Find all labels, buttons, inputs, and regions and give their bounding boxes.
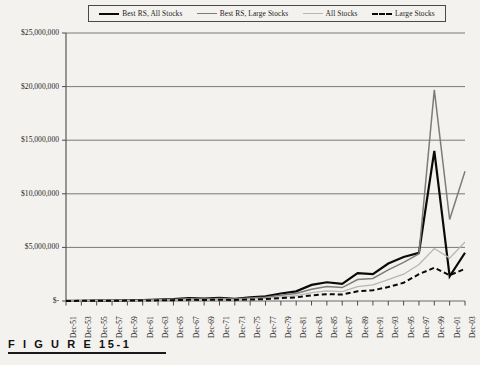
legend-entry: Best RS, All Stocks: [99, 9, 182, 18]
x-axis-tick-label: Dec-69: [207, 316, 216, 338]
x-axis-tick-label: Dec-87: [345, 316, 354, 338]
y-axis-tick-label: $25,000,000: [0, 28, 59, 37]
series-line: [66, 90, 465, 301]
x-axis-tick-label: Dec-85: [330, 316, 339, 338]
x-axis-tick-label: Dec-01: [453, 316, 462, 338]
legend-entry: Large Stocks: [372, 9, 435, 18]
legend-line-swatch: [303, 13, 323, 14]
x-axis-tick-label: Dec-55: [100, 316, 109, 338]
x-axis-tick-label: Dec-97: [422, 316, 431, 338]
series-line: [66, 151, 465, 301]
legend-label: All Stocks: [326, 9, 358, 18]
figure-caption-text: F I G U R E 15-1: [8, 338, 472, 351]
y-axis-tick-label: $20,000,000: [0, 82, 59, 91]
legend-label: Best RS, All Stocks: [122, 9, 182, 18]
x-axis-tick-label: Dec-77: [269, 316, 278, 338]
series-line: [66, 242, 465, 301]
legend-line-swatch: [99, 13, 119, 15]
chart-svg: [0, 26, 480, 311]
x-axis-tick-label: Dec-91: [376, 316, 385, 338]
x-axis-tick-label: Dec-99: [437, 316, 446, 338]
x-axis-tick-label: Dec-93: [391, 316, 400, 338]
x-axis-tick-label: Dec-65: [176, 316, 185, 338]
chart-legend: Best RS, All StocksBest RS, Large Stocks…: [88, 5, 446, 22]
x-axis-tick-label: Dec-63: [161, 316, 170, 338]
x-axis-tick-label: Dec-03: [468, 316, 477, 338]
caption-divider: [8, 352, 166, 354]
x-axis-tick-label: Dec-75: [253, 316, 262, 338]
x-axis-tick-label: Dec-71: [222, 316, 231, 338]
x-axis-tick-label: Dec-73: [238, 316, 247, 338]
figure-caption-block: F I G U R E 15-1: [8, 338, 472, 354]
legend-entry: Best RS, Large Stocks: [197, 9, 288, 18]
x-axis-tick-label: Dec-51: [69, 316, 78, 338]
legend-entry: All Stocks: [303, 9, 358, 18]
figure-container: Best RS, All StocksBest RS, Large Stocks…: [0, 0, 480, 365]
legend-label: Best RS, Large Stocks: [220, 9, 288, 18]
x-axis-tick-label: Dec-79: [284, 316, 293, 338]
x-axis-tick-label: Dec-83: [315, 316, 324, 338]
y-axis-tick-label: $-: [0, 296, 59, 305]
legend-line-swatch: [197, 13, 217, 14]
x-axis-tick-label: Dec-89: [361, 316, 370, 338]
x-axis-tick-label: Dec-81: [299, 316, 308, 338]
y-axis-tick-label: $5,000,000: [0, 242, 59, 251]
legend-label: Large Stocks: [395, 9, 435, 18]
x-axis-tick-label: Dec-59: [130, 316, 139, 338]
x-axis-tick-label: Dec-95: [407, 316, 416, 338]
chart-plot-area: $-$5,000,000$10,000,000$15,000,000$20,00…: [0, 26, 480, 311]
y-axis-tick-label: $10,000,000: [0, 189, 59, 198]
x-axis-tick-label: Dec-67: [192, 316, 201, 338]
x-axis-tick-label: Dec-53: [84, 316, 93, 338]
y-axis-tick-label: $15,000,000: [0, 135, 59, 144]
legend-line-swatch: [372, 13, 392, 15]
x-axis-tick-label: Dec-61: [146, 316, 155, 338]
x-axis-tick-label: Dec-57: [115, 316, 124, 338]
